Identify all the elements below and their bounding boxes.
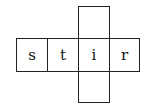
grid-cell-below xyxy=(78,71,110,103)
grid-cell-4: r xyxy=(109,38,140,72)
grid-cell-1: s xyxy=(16,38,48,72)
grid-cell-above xyxy=(78,6,110,39)
grid-cell-3: i xyxy=(78,38,110,72)
grid-cell-2: t xyxy=(47,38,79,72)
